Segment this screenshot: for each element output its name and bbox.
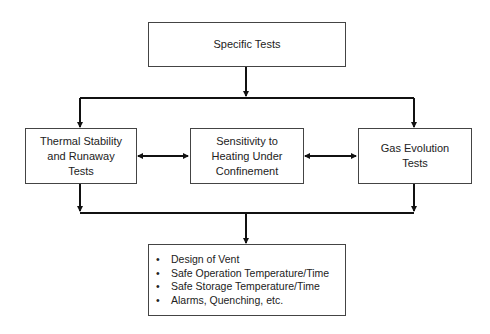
thermal-stability-label: Thermal Stability and Runaway Tests — [34, 134, 129, 179]
outcome-item: Safe Operation Temperature/Time — [171, 267, 329, 281]
sensitivity-heating-box: Sensitivity to Heating Under Confinement — [190, 128, 304, 184]
outcome-item: Safe Storage Temperature/Time — [171, 280, 329, 294]
specific-tests-box: Specific Tests — [148, 22, 346, 67]
outcome-item: Design of Vent — [171, 253, 329, 267]
outcomes-list: Design of Vent Safe Operation Temperatur… — [149, 253, 329, 307]
gas-evolution-box: Gas Evolution Tests — [358, 128, 472, 184]
specific-tests-label: Specific Tests — [213, 37, 280, 52]
gas-evolution-label: Gas Evolution Tests — [380, 141, 450, 171]
outcomes-box: Design of Vent Safe Operation Temperatur… — [148, 244, 346, 316]
outcome-item: Alarms, Quenching, etc. — [171, 294, 329, 308]
sensitivity-heating-label: Sensitivity to Heating Under Confinement — [197, 134, 297, 179]
thermal-stability-box: Thermal Stability and Runaway Tests — [25, 128, 137, 184]
